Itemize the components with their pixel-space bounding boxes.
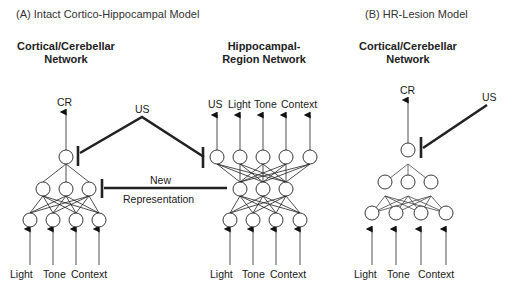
input-label-tone: Tone [43, 268, 66, 280]
cr-label: CR [57, 96, 72, 108]
us-teaching-signal [78, 117, 204, 168]
hr-input-light: Light [210, 268, 233, 280]
new-rep-label-2: Representation [123, 193, 194, 205]
input-label-light: Light [10, 268, 33, 280]
hr-output-tone: Tone [254, 98, 277, 110]
hr-output-us: US [208, 98, 223, 110]
network-diagram [0, 0, 513, 294]
hr-input-context: Context [270, 268, 306, 280]
new-rep-label-1: New [150, 174, 171, 186]
lesion-input-tone: Tone [387, 268, 410, 280]
cortical-output-node [59, 150, 73, 164]
input-label-context: Context [71, 268, 107, 280]
lesion-input-context: Context [418, 268, 454, 280]
lesion-cr-label: CR [400, 84, 415, 96]
lesion-input-light: Light [354, 268, 377, 280]
hr-input-tone: Tone [242, 268, 265, 280]
lesion-output-node [401, 143, 415, 157]
lesion-us-signal [421, 105, 487, 158]
hr-output-light: Light [228, 98, 251, 110]
us-label: US [135, 103, 150, 115]
lesion-us-label: US [482, 91, 497, 103]
hr-output-context: Context [281, 98, 317, 110]
